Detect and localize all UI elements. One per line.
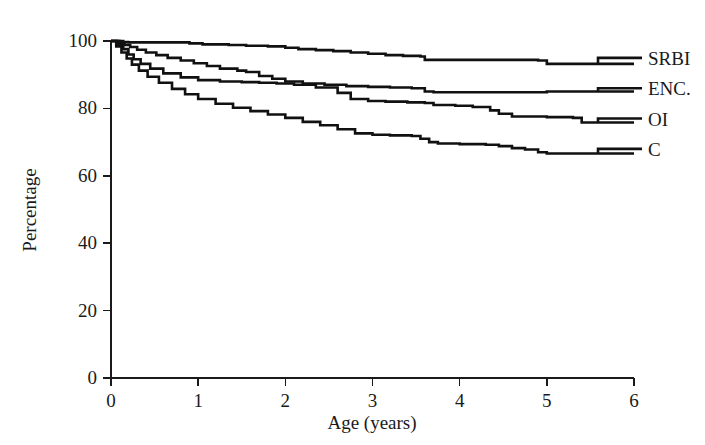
series-label-enc: ENC. — [648, 78, 691, 99]
x-tick-label: 2 — [281, 390, 291, 411]
series-labels: SRBIENC.OIC — [648, 48, 691, 160]
x-tick-label: 5 — [542, 390, 552, 411]
y-tick-label: 60 — [78, 165, 97, 186]
y-axis-ticks: 020406080100 — [69, 30, 112, 388]
x-axis-title: Age (years) — [327, 412, 416, 434]
survival-chart-figure: 020406080100 0123456 SRBIENC.OIC Age (ye… — [0, 0, 705, 445]
y-tick-label: 20 — [78, 300, 97, 321]
x-tick-label: 4 — [455, 390, 465, 411]
y-tick-label: 100 — [69, 30, 98, 51]
x-tick-label: 6 — [629, 390, 639, 411]
series-label-oi: OI — [648, 109, 668, 130]
x-tick-label: 3 — [368, 390, 378, 411]
series-label-srbi: SRBI — [648, 48, 690, 69]
x-axis-ticks: 0123456 — [106, 378, 639, 411]
x-tick-label: 1 — [193, 390, 203, 411]
y-tick-label: 40 — [78, 232, 97, 253]
y-tick-label: 80 — [78, 97, 97, 118]
x-tick-label: 0 — [106, 390, 116, 411]
y-axis-title: Percentage — [19, 168, 40, 251]
series-curve-c — [111, 41, 642, 154]
series-label-c: C — [648, 139, 661, 160]
series-curve-enc — [111, 41, 642, 92]
y-tick-label: 0 — [88, 367, 98, 388]
chart-canvas: 020406080100 0123456 SRBIENC.OIC Age (ye… — [0, 0, 705, 445]
series-curves — [111, 41, 642, 154]
